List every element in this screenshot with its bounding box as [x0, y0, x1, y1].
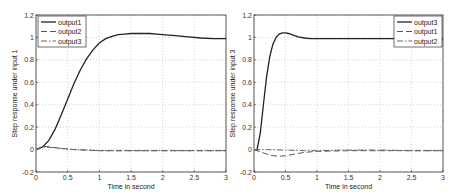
- x-tick-label: 0.5: [63, 174, 73, 181]
- y-tick-label: 0.6: [242, 79, 252, 86]
- legend-entry-output3: output3: [414, 19, 437, 27]
- x-tick-label: 2: [161, 174, 165, 181]
- y-tick-label: 1: [30, 34, 34, 41]
- legend-entry-output3: output3: [58, 38, 81, 46]
- x-tick-label: 1.5: [126, 174, 136, 181]
- chart-1: 00.511.522.53-0.200.20.40.60.811.2Time i…: [11, 12, 228, 191]
- y-tick-label: 0: [248, 146, 252, 153]
- y-tick-label: 1.2: [242, 12, 252, 19]
- x-tick-label: 2: [378, 174, 382, 181]
- x-tick-label: 1: [97, 174, 101, 181]
- x-tick-label: 2.5: [189, 174, 199, 181]
- y-tick-label: 0.4: [24, 101, 34, 108]
- y-tick-label: 0: [30, 146, 34, 153]
- legend-entry-output2: output2: [414, 38, 437, 46]
- y-axis-label: Step response under input 3: [229, 49, 237, 137]
- legend: output1output2output3: [38, 16, 86, 47]
- x-tick-label: 1: [315, 174, 319, 181]
- y-axis-label: Step response under input 1: [11, 49, 19, 137]
- x-axis-label: Time in second: [107, 183, 154, 190]
- x-tick-label: 0: [34, 174, 38, 181]
- x-tick-label: 0: [252, 174, 256, 181]
- y-tick-label: 0.2: [24, 124, 34, 131]
- legend-entry-output2: output2: [58, 28, 81, 36]
- y-tick-label: 0.8: [242, 56, 252, 63]
- y-tick-label: -0.2: [22, 169, 34, 176]
- x-tick-label: 3: [224, 174, 228, 181]
- y-tick-label: 0.8: [24, 56, 34, 63]
- y-tick-label: 0.6: [24, 79, 34, 86]
- y-tick-label: 0.4: [242, 101, 252, 108]
- y-tick-label: 1.2: [24, 12, 34, 19]
- x-tick-label: 1.5: [344, 174, 354, 181]
- x-axis-label: Time in second: [325, 183, 372, 190]
- y-tick-label: 1: [248, 34, 252, 41]
- series-output1: [254, 150, 443, 157]
- x-tick-label: 3: [441, 174, 445, 181]
- x-tick-label: 2.5: [407, 174, 417, 181]
- y-tick-label: -0.2: [240, 169, 252, 176]
- legend-entry-output1: output1: [414, 28, 437, 36]
- step-response-figure: 00.511.522.53-0.200.20.40.60.811.2Time i…: [0, 0, 459, 195]
- chart-2: 00.511.522.53-0.200.20.40.60.811.2Time i…: [229, 12, 445, 191]
- legend-entry-output1: output1: [58, 19, 81, 27]
- y-tick-label: 0.2: [242, 124, 252, 131]
- legend: output3output1output2: [394, 16, 442, 47]
- x-tick-label: 0.5: [281, 174, 291, 181]
